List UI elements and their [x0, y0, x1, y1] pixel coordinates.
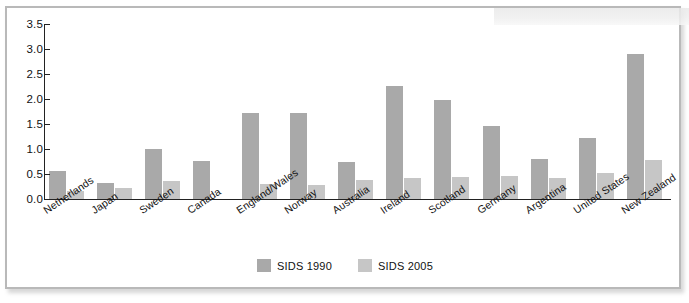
- legend-label: SIDS 1990: [277, 260, 332, 272]
- bar: [483, 126, 500, 199]
- bar-chart-plot: 0.00.51.01.52.02.53.03.5 NetherlandsJapa…: [7, 8, 683, 291]
- legend-item: SIDS 2005: [358, 259, 433, 272]
- legend-swatch: [257, 259, 271, 272]
- bar: [290, 113, 307, 199]
- y-axis-tick-mark: [44, 199, 50, 200]
- bar: [386, 86, 403, 200]
- bars-layer: [7, 8, 683, 291]
- y-axis-tick-mark: [44, 174, 50, 175]
- y-axis-tick-mark: [44, 49, 50, 50]
- bar: [627, 54, 644, 199]
- y-axis-tick-mark: [44, 149, 50, 150]
- legend-label: SIDS 2005: [378, 260, 433, 272]
- y-axis-tick-mark: [44, 24, 50, 25]
- bar: [242, 113, 259, 199]
- chart-legend: SIDS 1990SIDS 2005: [7, 259, 683, 272]
- legend-swatch: [358, 259, 372, 272]
- legend-item: SIDS 1990: [257, 259, 332, 272]
- chart-figure-frame: 0.00.51.01.52.02.53.03.5 NetherlandsJapa…: [5, 6, 681, 289]
- y-axis-tick-mark: [44, 99, 50, 100]
- y-axis-tick-mark: [44, 74, 50, 75]
- y-axis-tick-mark: [44, 124, 50, 125]
- bar: [434, 100, 451, 199]
